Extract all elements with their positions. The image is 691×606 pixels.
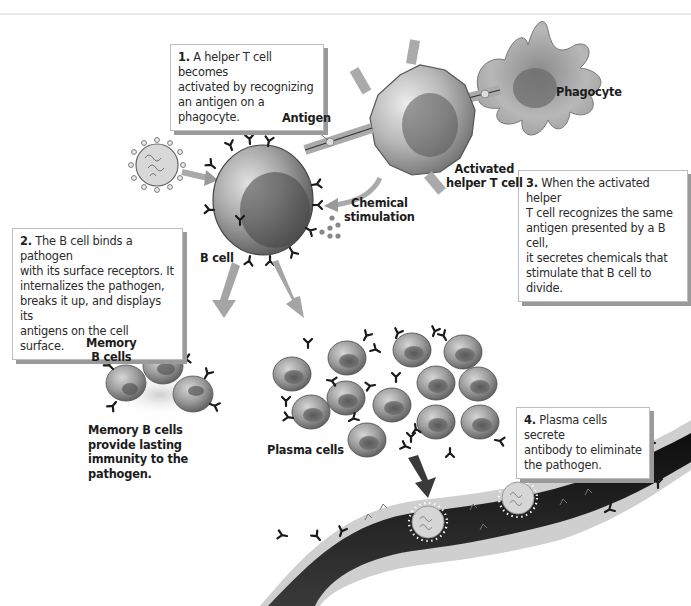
step-text: an antigen on a phagocyte. — [178, 95, 265, 124]
step-text: antigen presented by a B cell, — [526, 221, 665, 250]
arrow-to-memory — [212, 262, 240, 318]
label-b-cell: B cell — [200, 251, 234, 265]
plasma-cells — [273, 326, 499, 457]
callout-step-4: 4. Plasma cells secrete antibody to elim… — [516, 407, 650, 479]
step-number: 1. — [178, 50, 190, 64]
step-number: 4. — [524, 413, 536, 427]
callout-step-3: 3. When the activated helper T cell reco… — [518, 170, 688, 302]
chemical-dots — [319, 215, 340, 238]
step-text: breaks it up, and displays its — [20, 294, 161, 323]
label-phagocyte: Phagocyte — [556, 85, 622, 99]
step-text: A helper T cell becomes — [178, 50, 272, 79]
step-text: The B cell binds a pathogen — [20, 234, 133, 263]
step-number: 2. — [20, 234, 32, 248]
arrow-to-vessel — [408, 455, 436, 498]
step-text: stimulate that B cell to divide. — [526, 266, 651, 295]
phagocyte-cell — [477, 22, 601, 135]
desc-line: pathogen. — [88, 467, 152, 481]
step-text: it secretes chemicals that — [526, 251, 668, 265]
label-activated-t-cell: Activated helper T cell — [446, 162, 523, 190]
step-text: antibody to eliminate — [524, 443, 642, 457]
pathogen — [129, 138, 186, 193]
label-line: Chemical — [351, 196, 408, 210]
label-line: B cells — [91, 350, 131, 364]
label-line: stimulation — [344, 210, 415, 224]
step-text: internalizes the pathogen, — [20, 279, 164, 293]
b-cell — [205, 135, 322, 266]
label-line: Memory — [86, 336, 137, 350]
label-plasma-cells: Plasma cells — [267, 443, 344, 457]
step-number: 3. — [526, 176, 538, 190]
memory-b-cells-description: Memory B cells provide lasting immunity … — [88, 423, 188, 481]
step-text: When the activated helper — [526, 176, 650, 205]
label-chemical-stimulation: Chemical stimulation — [344, 196, 415, 224]
arrow-to-plasma — [272, 260, 304, 318]
diagram-stage: 1. A helper T cell becomes activated by … — [0, 0, 691, 606]
step-text: Plasma cells secrete — [524, 413, 607, 442]
label-memory-b-cells: Memory B cells — [86, 336, 137, 364]
desc-line: immunity to the — [88, 452, 188, 466]
label-antigen: Antigen — [282, 111, 331, 125]
pathogen-arrow — [182, 172, 208, 178]
label-line: helper T cell — [446, 176, 523, 190]
step-text: with its surface receptors. It — [20, 264, 174, 278]
step-text: the pathogen. — [524, 458, 602, 472]
step-text: activated by recognizing — [178, 80, 314, 94]
desc-line: Memory B cells — [88, 423, 183, 437]
desc-line: provide lasting — [88, 438, 182, 452]
step-text: T cell recognizes the same — [526, 206, 673, 220]
label-line: Activated — [455, 162, 515, 176]
